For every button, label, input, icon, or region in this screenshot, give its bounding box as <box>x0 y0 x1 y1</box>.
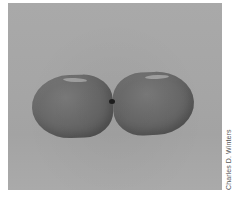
photograph <box>8 3 222 190</box>
photo-credit: Charles D. Winters <box>225 129 232 190</box>
left-balloon <box>31 74 114 140</box>
balloon-knot <box>109 99 115 104</box>
left-balloon-highlight <box>63 77 87 82</box>
right-balloon <box>111 70 195 137</box>
right-balloon-highlight <box>145 75 169 80</box>
